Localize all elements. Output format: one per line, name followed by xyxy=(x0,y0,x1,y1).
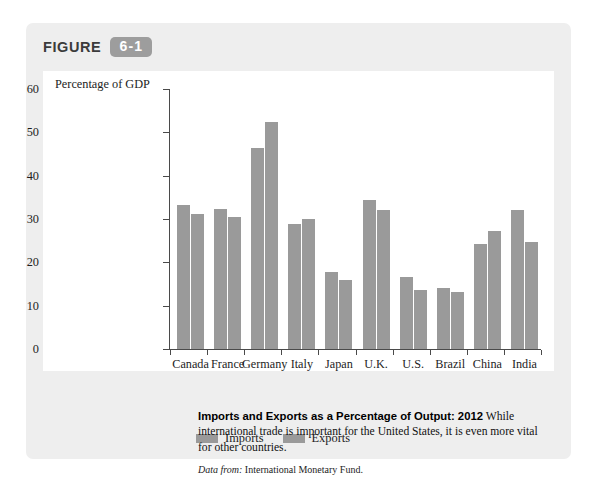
bar-imports-us xyxy=(400,277,413,349)
bar-exports-uk xyxy=(377,210,390,349)
figure-header: FIGURE 6-1 xyxy=(43,37,152,57)
y-axis-tick xyxy=(163,349,170,350)
x-axis-label-india: India xyxy=(512,357,537,372)
y-axis-tick-label: 0 xyxy=(33,342,39,357)
chart-plot-panel: Percentage of GDP 0102030405060 CanadaFr… xyxy=(43,71,554,371)
bar-imports-france xyxy=(214,209,227,349)
figure-number-badge: 6-1 xyxy=(110,37,152,57)
bar-exports-china xyxy=(488,231,501,349)
x-axis-label-canada: Canada xyxy=(172,357,209,372)
bar-exports-italy xyxy=(302,219,315,349)
source-label: Data from: xyxy=(198,464,242,475)
x-axis-tick xyxy=(541,350,542,355)
y-axis-tick xyxy=(163,176,170,177)
source-line: Data from: International Monetary Fund. xyxy=(198,464,546,475)
y-axis-tick xyxy=(163,262,170,263)
bar-exports-us xyxy=(414,290,427,349)
caption-title: Imports and Exports as a Percentage of O… xyxy=(198,410,483,422)
x-axis-tick xyxy=(318,350,319,355)
x-axis-label-france: France xyxy=(211,357,244,372)
y-axis-tick xyxy=(163,89,170,90)
bar-exports-japan xyxy=(339,280,352,349)
x-axis-label-germany: Germany xyxy=(242,357,287,372)
bar-group xyxy=(251,89,278,349)
bar-group xyxy=(363,89,390,349)
bar-exports-brazil xyxy=(451,292,464,349)
y-axis-tick xyxy=(163,132,170,133)
x-axis-tick xyxy=(393,350,394,355)
x-axis-label-china: China xyxy=(473,357,502,372)
bar-group xyxy=(400,89,427,349)
figure-card: FIGURE 6-1 Percentage of GDP 01020304050… xyxy=(26,23,571,459)
x-axis-tick xyxy=(356,350,357,355)
bar-group xyxy=(474,89,501,349)
bar-exports-india xyxy=(525,242,538,349)
bar-imports-germany xyxy=(251,148,264,349)
y-axis-tick-label: 30 xyxy=(27,212,39,227)
bar-group xyxy=(325,89,352,349)
y-axis-tick-label: 40 xyxy=(27,169,39,184)
bar-imports-china xyxy=(474,244,487,349)
figure-label: FIGURE xyxy=(43,39,101,55)
bar-imports-italy xyxy=(288,224,301,349)
bar-imports-brazil xyxy=(437,288,450,349)
y-axis-tick xyxy=(163,219,170,220)
x-axis-tick xyxy=(244,350,245,355)
bar-group xyxy=(437,89,464,349)
caption-text: Imports and Exports as a Percentage of O… xyxy=(198,409,546,455)
caption-block: Imports and Exports as a Percentage of O… xyxy=(198,409,546,475)
x-axis-tick xyxy=(170,350,171,355)
source-value: International Monetary Fund. xyxy=(242,464,363,475)
x-axis-tick xyxy=(281,350,282,355)
x-axis-label-uk: U.K. xyxy=(364,357,388,372)
bar-imports-uk xyxy=(363,200,376,349)
y-axis-tick-label: 20 xyxy=(27,255,39,270)
bar-exports-france xyxy=(228,217,241,349)
x-axis-label-italy: Italy xyxy=(291,357,313,372)
y-axis-tick-label: 50 xyxy=(27,125,39,140)
x-axis-tick xyxy=(504,350,505,355)
bar-group xyxy=(511,89,538,349)
x-axis-label-japan: Japan xyxy=(325,357,353,372)
y-axis-tick-label: 60 xyxy=(27,82,39,97)
bar-group xyxy=(214,89,241,349)
bar-group xyxy=(177,89,204,349)
y-axis-label: Percentage of GDP xyxy=(55,77,150,92)
x-axis-tick xyxy=(467,350,468,355)
bar-group xyxy=(288,89,315,349)
bar-imports-canada xyxy=(177,205,190,349)
x-axis-label-brazil: Brazil xyxy=(435,357,465,372)
y-axis-tick-label: 10 xyxy=(27,299,39,314)
x-axis-tick xyxy=(207,350,208,355)
x-axis-label-us: U.S. xyxy=(402,357,424,372)
bar-imports-japan xyxy=(325,272,338,349)
bar-exports-canada xyxy=(191,214,204,349)
bars-layer xyxy=(170,89,541,349)
y-axis-tick xyxy=(163,306,170,307)
x-axis-tick xyxy=(430,350,431,355)
bar-imports-india xyxy=(511,210,524,349)
bar-exports-germany xyxy=(265,122,278,349)
